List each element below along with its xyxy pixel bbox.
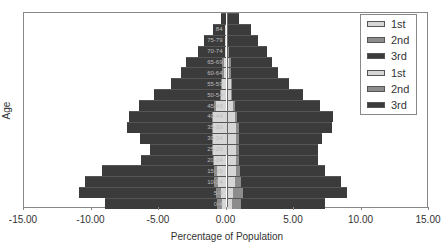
legend-item-2nd-b: 2nd	[367, 82, 409, 96]
age-group-label: 30-34	[207, 135, 222, 141]
age-group-label: 70-74	[207, 48, 222, 54]
bar-segment-2nd-right	[233, 187, 242, 198]
bar-segment-2nd-right	[235, 176, 242, 187]
x-tick-mark	[428, 207, 429, 210]
bar-row	[24, 122, 427, 133]
x-tick-mark	[226, 207, 227, 210]
bar-row	[24, 165, 427, 176]
age-group-label: 20-24	[207, 157, 222, 163]
legend-swatch-1st	[367, 70, 385, 76]
bar-segment-3rd-left	[105, 198, 217, 209]
bar-segment-3rd-left	[139, 100, 215, 111]
x-tick-label: -10.00	[76, 214, 104, 225]
age-group-label: 15-19	[207, 168, 222, 174]
x-tick-label: 15.00	[415, 214, 440, 225]
legend-swatch-2nd	[367, 37, 385, 43]
bar-segment-3rd-left	[102, 165, 214, 176]
bar-segment-3rd-right	[235, 100, 320, 111]
age-group-label: 50-54	[207, 92, 222, 98]
bar-segment-1st-right	[227, 176, 235, 187]
bar-segment-3rd-right	[239, 155, 319, 166]
legend-swatch-3rd	[367, 53, 385, 59]
x-tick-mark	[91, 207, 92, 210]
bar-row	[24, 187, 427, 198]
legend: 1st 2nd 3rd 1st 2nd 3rd	[360, 14, 417, 115]
x-tick-mark	[361, 207, 362, 210]
bar-segment-3rd-right	[229, 46, 267, 57]
bar-segment-1st-right	[227, 111, 235, 122]
legend-item-2nd: 2nd	[367, 33, 409, 47]
x-axis-label: Percentage of Population	[0, 231, 448, 242]
legend-item-1st: 1st	[367, 17, 406, 31]
age-group-label: 35-39	[207, 124, 222, 130]
x-tick-mark	[293, 207, 294, 210]
bar-segment-1st-right	[227, 122, 236, 133]
bar-segment-3rd-right	[239, 144, 319, 155]
x-tick-label: -5.00	[147, 214, 170, 225]
age-group-label: 45-49	[207, 103, 222, 109]
bar-row	[24, 176, 427, 187]
bar-segment-1st-right	[227, 133, 236, 144]
bar-segment-3rd-left	[85, 176, 215, 187]
age-group-label: 84	[216, 26, 223, 32]
x-tick-mark	[23, 207, 24, 210]
x-tick-label: 5.00	[283, 214, 302, 225]
bar-segment-3rd-left	[127, 122, 212, 133]
bar-segment-1st-right	[227, 155, 236, 166]
legend-item-3rd: 3rd	[367, 49, 407, 63]
bar-segment-1st-right	[227, 187, 234, 198]
bar-row	[24, 155, 427, 166]
age-group-label: 5-9	[214, 190, 223, 196]
bar-segment-3rd-left	[129, 111, 211, 122]
bar-row	[24, 144, 427, 155]
bar-segment-3rd-left	[150, 144, 212, 155]
legend-swatch-3rd	[367, 102, 385, 108]
bar-segment-3rd-right	[231, 67, 278, 78]
bar-row	[24, 133, 427, 144]
bar-segment-3rd-right	[227, 13, 239, 24]
y-axis-label: Age	[1, 102, 12, 120]
bar-segment-3rd-right	[239, 122, 332, 133]
bar-segment-3rd-left	[140, 133, 212, 144]
bar-segment-2nd-left	[222, 67, 223, 78]
bar-segment-3rd-right	[231, 57, 273, 68]
bar-segment-3rd-right	[239, 133, 323, 144]
zero-line	[227, 13, 228, 207]
legend-item-1st-b: 1st	[367, 66, 406, 80]
bar-segment-1st-right	[227, 144, 236, 155]
bar-segment-3rd-right	[237, 111, 333, 122]
bar-segment-3rd-right	[228, 35, 258, 46]
bar-segment-3rd-right	[232, 89, 304, 100]
age-group-label: 10-14	[207, 179, 222, 185]
bar-segment-3rd-left	[141, 155, 213, 166]
age-group-label: 25-29	[207, 146, 222, 152]
bar-segment-3rd-right	[243, 187, 347, 198]
legend-swatch-2nd	[367, 86, 385, 92]
bar-segment-1st-right	[227, 165, 236, 176]
age-group-label: 55-59	[207, 81, 222, 87]
x-tick-label: 10.00	[348, 214, 373, 225]
bar-segment-3rd-right	[241, 198, 325, 209]
age-group-label: 40-44	[207, 113, 222, 119]
age-group-label: 60-64	[207, 70, 222, 76]
bar-segment-3rd-right	[241, 176, 341, 187]
bar-segment-3rd-right	[240, 165, 325, 176]
bar-segment-1st-right	[227, 100, 234, 111]
age-group-label: 0-4	[214, 201, 223, 207]
legend-item-3rd-b: 3rd	[367, 98, 407, 112]
legend-swatch-1st	[367, 21, 385, 27]
bar-segment-2nd-left	[222, 57, 223, 68]
bar-segment-3rd-right	[228, 24, 251, 35]
x-tick-label: -15.00	[9, 214, 37, 225]
age-group-label: 75-79	[207, 37, 222, 43]
bar-segment-3rd-left	[79, 187, 215, 198]
x-tick-label: 0.00	[216, 214, 235, 225]
age-group-label: 65-69	[207, 59, 222, 65]
x-tick-mark	[158, 207, 159, 210]
bar-segment-2nd-right	[232, 198, 241, 209]
bar-segment-3rd-right	[232, 78, 289, 89]
